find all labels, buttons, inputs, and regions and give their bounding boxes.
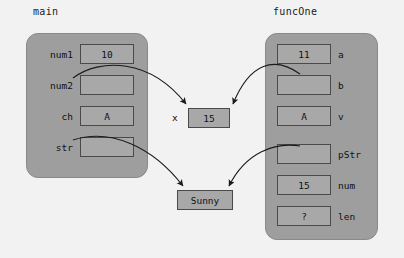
var-label-num2: num2 [39,80,80,91]
var-cell-pstr [277,144,331,164]
var-row-num1: num1 10 [39,44,134,64]
diagram-canvas: main num1 10 num2 ch A str funcOne a 11 … [0,0,404,258]
heap-box-x: 15 [188,108,230,128]
var-row-v: v A [277,106,372,126]
var-label-len: len [331,211,372,222]
var-row-len: len ? [277,206,372,226]
var-cell-num2 [80,75,134,95]
var-row-num: num 15 [277,175,372,195]
var-label-num: num [331,180,372,191]
var-label-pstr: pStr [331,149,372,160]
var-label-a: a [331,49,372,60]
var-cell-len: ? [277,206,331,226]
heap-box-sunny: Sunny [177,190,233,210]
var-row-a: a 11 [277,44,372,64]
var-label-str: str [39,142,80,153]
var-cell-v: A [277,106,331,126]
frame-title-funcone: funcOne [273,6,317,17]
var-cell-ch: A [80,106,134,126]
var-cell-b [277,75,331,95]
var-cell-num1: 10 [80,44,134,64]
stack-frame-main: num1 10 num2 ch A str [26,33,148,178]
var-label-num1: num1 [39,49,80,60]
var-row-str: str [39,137,134,157]
frame-title-main: main [33,6,58,17]
var-label-b: b [331,80,372,91]
var-row-b: b [277,75,372,95]
var-row-num2: num2 [39,75,134,95]
var-label-v: v [331,111,372,122]
var-row-pstr: pStr [277,144,372,164]
heap-label-x: x [172,112,178,123]
var-row-ch: ch A [39,106,134,126]
stack-frame-funcone: a 11 b v A pStr num 15 len ? [265,33,378,240]
var-cell-num: 15 [277,175,331,195]
var-label-ch: ch [39,111,80,122]
var-cell-a: 11 [277,44,331,64]
var-cell-str [80,137,134,157]
